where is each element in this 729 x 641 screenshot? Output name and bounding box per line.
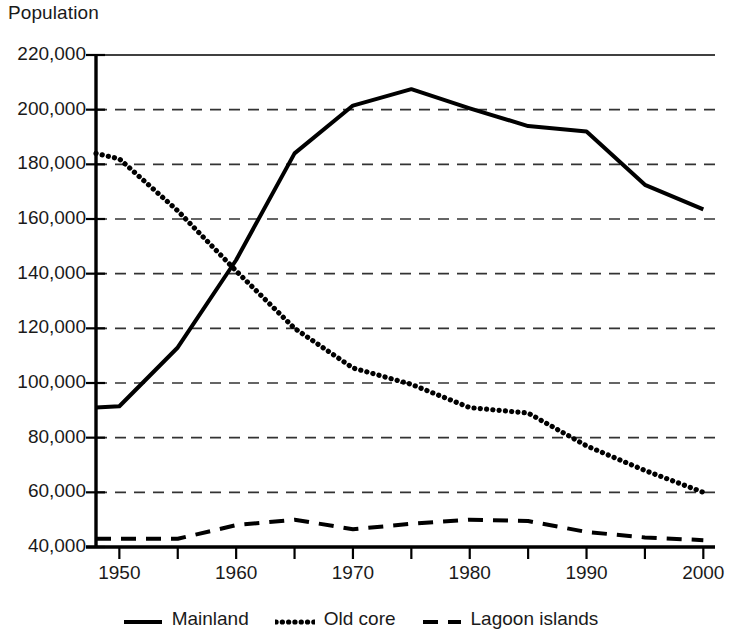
legend-label: Old core — [324, 608, 396, 630]
legend-swatch-solid-icon — [123, 612, 163, 626]
legend-item-lagoon-islands: Lagoon islands — [422, 608, 599, 630]
axis-lines — [86, 54, 715, 547]
data-series — [96, 89, 703, 540]
axis-ticks — [86, 55, 703, 559]
series-line-old-core — [96, 153, 703, 492]
series-line-lagoon-islands — [96, 520, 703, 541]
chart-legend: MainlandOld coreLagoon islands — [0, 608, 721, 630]
gridlines — [96, 55, 715, 492]
legend-swatch-dashed-icon — [422, 612, 462, 626]
legend-swatch-dotted-icon — [275, 612, 315, 626]
legend-label: Mainland — [172, 608, 249, 630]
series-line-mainland — [96, 89, 703, 407]
legend-label: Lagoon islands — [471, 608, 599, 630]
legend-item-mainland: Mainland — [123, 608, 249, 630]
legend-item-old-core: Old core — [275, 608, 396, 630]
